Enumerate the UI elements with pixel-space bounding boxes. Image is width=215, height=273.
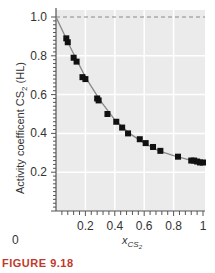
svg-text:0.2: 0.2 — [30, 165, 47, 179]
svg-text:0.8: 0.8 — [30, 49, 47, 63]
svg-text:0.4: 0.4 — [30, 126, 47, 140]
svg-text:1.0: 1.0 — [30, 10, 47, 24]
svg-text:0.6: 0.6 — [30, 88, 47, 102]
svg-text:0.2: 0.2 — [77, 219, 94, 233]
svg-text:0.8: 0.8 — [165, 219, 182, 233]
figure-caption: FIGURE 9.18 — [2, 257, 74, 269]
svg-text:0.4: 0.4 — [106, 219, 123, 233]
plot-background — [56, 10, 205, 211]
figure-label: FIGURE — [2, 257, 47, 269]
origin-label: 0 — [12, 233, 19, 247]
x-axis-title: xCS2 — [121, 234, 143, 250]
figure-number: 9.18 — [50, 257, 73, 269]
svg-text:0.6: 0.6 — [136, 219, 153, 233]
y-axis-title: Activity coefficent CS2 (HL) — [14, 62, 29, 194]
svg-text:1: 1 — [200, 219, 207, 233]
activity-coefficient-chart: 0.20.40.60.81.00.20.40.60.81 0 Activity … — [0, 0, 215, 255]
